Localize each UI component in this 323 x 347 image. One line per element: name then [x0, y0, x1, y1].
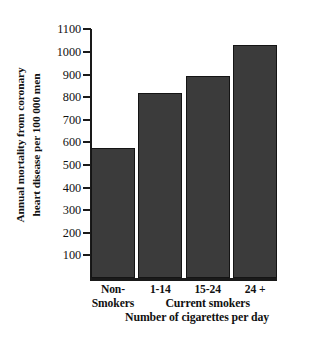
y-tick-mark [83, 96, 91, 98]
bar [138, 93, 182, 278]
y-tick-label: 700 [45, 114, 81, 126]
x-axis-line [90, 278, 277, 281]
bar [91, 148, 135, 278]
bar-chart-figure: Annual mortality from coronary heart dis… [0, 0, 323, 347]
y-tick-mark [83, 51, 91, 53]
y-tick-mark [83, 28, 91, 30]
y-tick-label: 300 [45, 204, 81, 216]
x-axis-title: Number of cigarettes per day [78, 311, 316, 324]
y-tick-mark [83, 232, 91, 234]
y-tick-label: 800 [45, 91, 81, 103]
y-tick-label: 1000 [45, 46, 81, 58]
y-tick-mark [83, 141, 91, 143]
x-category-label: 24 + [227, 283, 283, 297]
y-tick-label: 100 [45, 249, 81, 261]
group-label-current-smokers: Current smokers [138, 297, 277, 310]
y-tick-mark [83, 119, 91, 121]
x-category-label-line: Smokers [85, 297, 141, 311]
y-axis-title-line-2: heart disease per 100 000 men [28, 67, 44, 222]
y-tick-label: 900 [45, 69, 81, 81]
y-tick-label: 600 [45, 136, 81, 148]
y-tick-mark [83, 254, 91, 256]
y-tick-mark [83, 164, 91, 166]
y-tick-mark [83, 187, 91, 189]
y-tick-label: 200 [45, 227, 81, 239]
y-tick-label: 500 [45, 159, 81, 171]
bar [233, 45, 277, 278]
y-tick-label: 1100 [45, 23, 81, 35]
x-category-label-line: 24 + [227, 283, 283, 297]
y-axis-title-line-1: Annual mortality from coronary [13, 67, 29, 222]
plot-area [91, 31, 277, 278]
y-tick-label: 400 [45, 182, 81, 194]
y-tick-mark [83, 209, 91, 211]
y-tick-mark [83, 74, 91, 76]
bar [186, 76, 230, 278]
